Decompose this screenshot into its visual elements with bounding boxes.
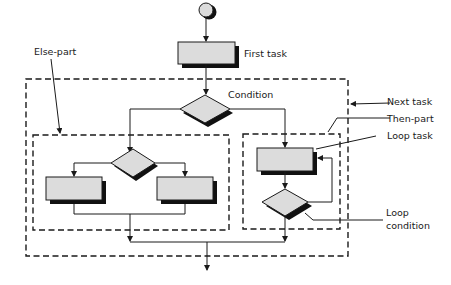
else-condition-node xyxy=(111,149,158,181)
label-loop-condition-line1: Loop xyxy=(386,207,409,218)
label-first-task: First task xyxy=(244,48,288,59)
label-then-part: Then-part xyxy=(386,113,434,124)
leader-next-task xyxy=(351,103,390,104)
arrow-else-condition-left xyxy=(74,163,111,176)
label-next-task: Next task xyxy=(387,96,433,107)
else-task-right-node xyxy=(157,177,217,204)
label-loop-condition-line2: condition xyxy=(386,220,430,231)
start-node xyxy=(199,3,217,20)
else-merge-line xyxy=(74,204,185,214)
arrow-else-condition-right xyxy=(155,163,185,176)
label-condition: Condition xyxy=(228,89,273,100)
flowchart-diagram: First task Else-part Condition Next task… xyxy=(0,0,451,285)
label-loop-task: Loop task xyxy=(387,130,433,141)
else-task-left-node xyxy=(46,177,106,204)
label-else-part: Else-part xyxy=(34,46,77,57)
first-task-node xyxy=(178,42,239,68)
leader-else-part xyxy=(51,59,60,133)
leader-then-part xyxy=(328,118,390,132)
arrow-condition-to-then xyxy=(230,109,285,147)
condition-node xyxy=(180,95,233,127)
loop-task-node xyxy=(257,148,317,175)
loop-condition-node xyxy=(262,189,312,220)
leader-loop-task xyxy=(316,136,376,149)
arrow-condition-to-else xyxy=(130,109,180,152)
leader-loop-condition xyxy=(305,213,383,220)
